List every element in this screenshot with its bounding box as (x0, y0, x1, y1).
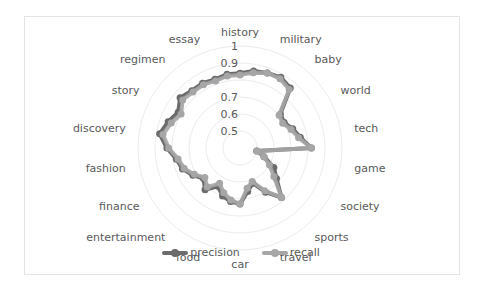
recall-point (159, 131, 166, 138)
category-label: car (231, 258, 249, 271)
legend: precision recall (0, 246, 482, 259)
recall-point (204, 184, 211, 191)
recall-point (165, 145, 172, 152)
recall-point (181, 165, 188, 172)
recall-point (295, 134, 302, 141)
category-label: game (354, 162, 385, 175)
tick-label: 0.5 (221, 125, 239, 138)
category-label: regimen (120, 53, 166, 66)
recall-point (288, 126, 295, 133)
tick-label: 0.6 (221, 108, 239, 121)
category-label: discovery (73, 122, 126, 135)
category-label: essay (169, 33, 201, 46)
category-label: tech (354, 122, 378, 135)
recall-point (212, 77, 219, 84)
recall-point (224, 73, 231, 80)
recall-point (276, 75, 283, 82)
legend-item-recall[interactable]: recall (262, 246, 320, 259)
recall-point (308, 145, 315, 152)
recall-point (201, 174, 208, 181)
precision-line-icon (162, 251, 188, 255)
recall-point (220, 189, 227, 196)
recall-point (264, 69, 271, 76)
recall-point (278, 194, 285, 201)
category-label: sports (315, 231, 349, 244)
tick-label: 0.7 (221, 91, 239, 104)
recall-point (253, 147, 260, 154)
recall-point (266, 162, 273, 169)
category-label: history (221, 26, 259, 39)
category-label: military (280, 33, 322, 46)
tick-label: 1 (231, 40, 238, 53)
recall-point (261, 187, 268, 194)
recall-point (237, 201, 244, 208)
legend-label: recall (290, 246, 320, 259)
recall-point (200, 81, 207, 88)
recall-point (286, 86, 293, 93)
recall-point (244, 185, 251, 192)
grid-circle (206, 114, 274, 182)
recall-point (168, 119, 175, 126)
legend-item-precision[interactable]: precision (162, 246, 240, 259)
recall-point (249, 178, 256, 185)
recall-point (270, 173, 277, 180)
recall-point (260, 153, 267, 160)
recall-point (191, 171, 198, 178)
recall-point (276, 112, 283, 119)
recall-line-icon (262, 251, 288, 255)
category-label: finance (99, 200, 140, 213)
recall-point (250, 69, 257, 76)
recall-point (179, 96, 186, 103)
category-label: entertainment (86, 231, 166, 244)
tick-label: 0.9 (221, 57, 239, 70)
category-label: baby (315, 53, 343, 66)
category-label: society (340, 200, 380, 213)
recall-point (227, 196, 234, 203)
category-label: story (112, 84, 140, 97)
category-label: world (340, 84, 370, 97)
legend-label: precision (190, 246, 240, 259)
recall-point (237, 71, 244, 78)
recall-point (190, 89, 197, 96)
recall-point (216, 180, 223, 187)
recall-point (175, 155, 182, 162)
category-label: fashion (86, 162, 126, 175)
recall-point (279, 120, 286, 127)
recall-point (178, 111, 185, 118)
